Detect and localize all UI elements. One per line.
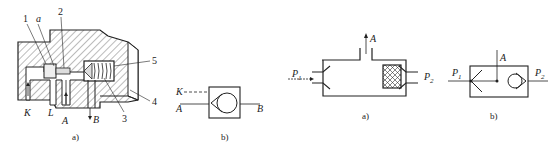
port-label-P1: P1 xyxy=(291,68,302,82)
port-label-P2: P2 xyxy=(423,71,434,85)
part-number-1: 1 xyxy=(23,13,28,24)
shuttle-valve-body xyxy=(288,33,418,96)
part-number-3: 3 xyxy=(122,113,127,124)
valve-cross-section xyxy=(18,17,150,120)
diagram-canvas: 1 a 2 3 4 5 K L A B a) K A B b) A P1 P2 … xyxy=(0,0,560,150)
port-label-B: B xyxy=(257,103,263,114)
check-valve-symbol-left xyxy=(180,87,260,118)
port-label-A: A xyxy=(499,52,507,63)
port-label-A: A xyxy=(175,103,183,114)
port-label-K: K xyxy=(23,107,32,118)
part-number-2: 2 xyxy=(58,6,63,17)
port-label-A: A xyxy=(369,33,377,44)
port-label-A: A xyxy=(61,115,69,126)
caption-right-b: b) xyxy=(490,111,498,121)
caption-left-a: a) xyxy=(72,132,79,142)
port-label-K: K xyxy=(175,86,184,97)
port-label-P2: P2 xyxy=(534,67,545,81)
port-label-P1: P1 xyxy=(451,67,462,81)
part-number-5: 5 xyxy=(152,55,157,66)
caption-left-b: b) xyxy=(221,132,229,142)
callout-a: a xyxy=(36,13,41,24)
port-label-L: L xyxy=(47,107,54,118)
caption-right-a: a) xyxy=(362,111,369,121)
port-label-B: B xyxy=(93,114,99,125)
shuttle-valve-symbol xyxy=(448,50,548,97)
part-number-4: 4 xyxy=(152,96,157,107)
